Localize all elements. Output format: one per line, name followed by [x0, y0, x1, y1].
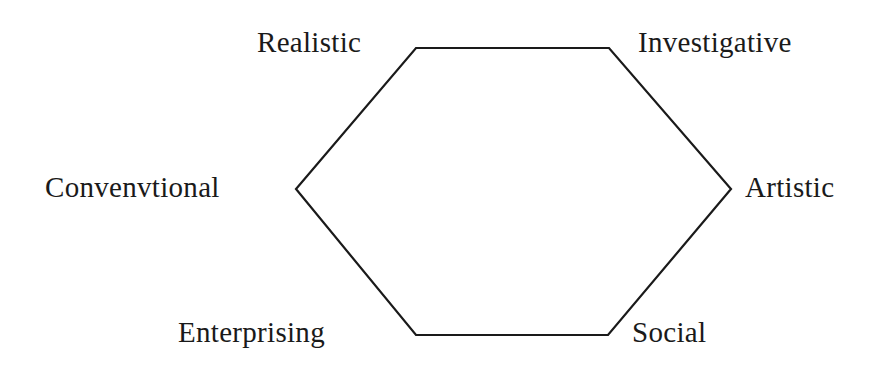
label-enterprising: Enterprising	[178, 318, 325, 347]
label-conventional: Convenvtional	[45, 173, 220, 202]
hexagon-outline	[296, 48, 731, 335]
label-realistic: Realistic	[257, 28, 361, 57]
label-investigative: Investigative	[638, 28, 792, 57]
label-artistic: Artistic	[745, 173, 834, 202]
label-social: Social	[632, 318, 706, 347]
